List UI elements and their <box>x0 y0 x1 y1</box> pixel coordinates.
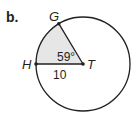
problem-label: b. <box>6 9 18 25</box>
label-H: H <box>22 57 32 72</box>
radius-label: 10 <box>53 68 67 82</box>
circle-sector-diagram: b. G H T 59° 10 <box>0 0 137 129</box>
point-H <box>34 62 38 66</box>
point-T <box>81 62 85 66</box>
label-G: G <box>49 9 59 24</box>
angle-label: 59° <box>57 50 75 64</box>
label-T: T <box>87 57 96 72</box>
